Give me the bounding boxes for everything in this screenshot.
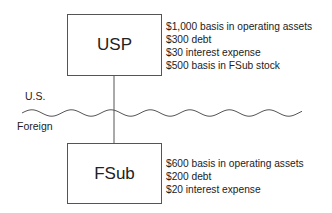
border-wave — [22, 110, 302, 116]
usp-fact: $500 basis in FSub stock — [166, 59, 312, 72]
fsub-entity-name: FSub — [94, 164, 135, 184]
foreign-jurisdiction-label: Foreign — [17, 120, 53, 132]
usp-fact: $300 debt — [166, 33, 312, 46]
usp-fact: $1,000 basis in operating assets — [166, 20, 312, 33]
usp-entity-name: USP — [97, 35, 132, 55]
fsub-fact: $600 basis in operating assets — [166, 157, 304, 170]
us-jurisdiction-label: U.S. — [25, 90, 45, 102]
fsub-entity-box: FSub — [67, 143, 162, 204]
usp-entity-box: USP — [67, 14, 162, 76]
fsub-fact: $200 debt — [166, 170, 304, 183]
fsub-facts-list: $600 basis in operating assets $200 debt… — [166, 157, 304, 196]
fsub-fact: $20 interest expense — [166, 183, 304, 196]
usp-facts-list: $1,000 basis in operating assets $300 de… — [166, 20, 312, 72]
usp-fact: $30 interest expense — [166, 46, 312, 59]
